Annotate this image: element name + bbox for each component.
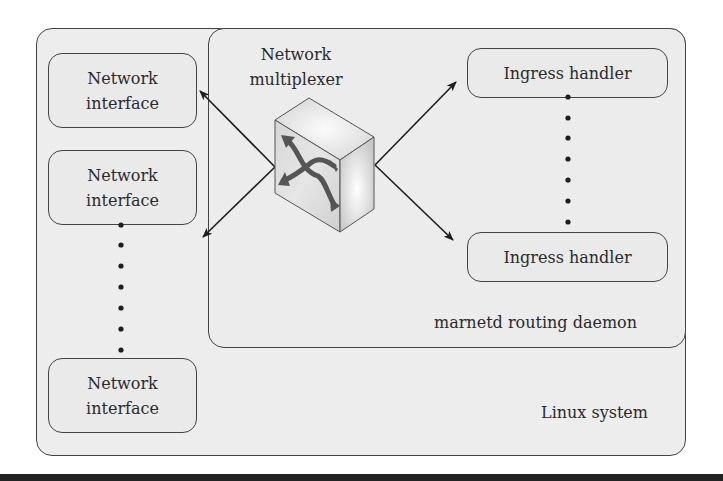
arrow-to-ingress-handler-top	[375, 82, 456, 165]
arrow-to-network-interface-top	[200, 91, 275, 167]
arrow-to-ingress-handler-bottom	[375, 165, 453, 240]
diagram-graphics	[0, 0, 723, 481]
interface-ellipsis-dots	[118, 222, 123, 352]
network-switch-cube-icon	[275, 98, 374, 232]
bottom-rule	[0, 474, 723, 481]
arrow-to-network-interface-bottom	[203, 167, 275, 237]
diagram-canvas: Network interface Network interface Netw…	[0, 0, 723, 481]
ingress-ellipsis-dots	[565, 94, 570, 224]
